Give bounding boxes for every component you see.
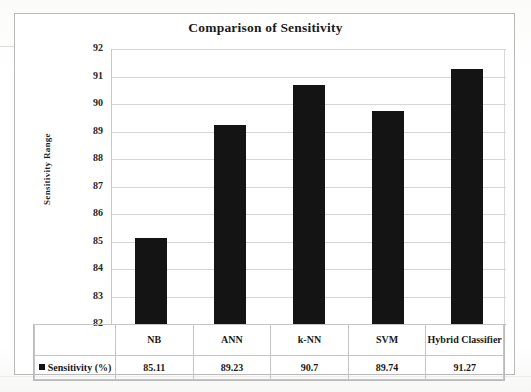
y-axis-title: Sensitivity Range <box>42 109 52 229</box>
bar-k-nn <box>293 85 325 324</box>
chart-title: Comparison of Sensitivity <box>15 20 516 36</box>
y-tick-label-84: 84 <box>69 262 103 273</box>
table-category-cell: NB <box>116 325 194 356</box>
bar-nb <box>135 238 167 324</box>
chart-frame: Comparison of Sensitivity Sensitivity Ra… <box>14 13 515 375</box>
bar-ann <box>214 125 246 324</box>
y-tick-label-87: 87 <box>69 180 103 191</box>
table-value-cell: 85.11 <box>116 356 194 380</box>
table-category-cell: k-NN <box>271 325 349 356</box>
table-category-cell: SVM <box>348 325 426 356</box>
y-tick-label-92: 92 <box>69 42 103 53</box>
legend-marker-icon <box>39 364 45 370</box>
table-corner-cell <box>35 325 116 356</box>
legend-entry: Sensitivity (%) <box>35 356 116 380</box>
chart-screenshot: Comparison of Sensitivity Sensitivity Ra… <box>0 0 531 392</box>
y-tick-label-83: 83 <box>69 290 103 301</box>
table-value-cell: 89.74 <box>348 356 426 380</box>
legend-label: Sensitivity (%) <box>48 362 112 373</box>
y-tick-label-91: 91 <box>69 70 103 81</box>
table-category-cell: ANN <box>193 325 271 356</box>
plot-area <box>111 49 505 324</box>
gridline-91 <box>112 77 506 78</box>
bar-svm <box>372 111 404 324</box>
bar-hybrid-classifier <box>451 69 483 324</box>
y-tick-label-85: 85 <box>69 235 103 246</box>
table-row-categories: NBANNk-NNSVMHybrid Classifier <box>35 325 504 356</box>
y-tick-label-90: 90 <box>69 97 103 108</box>
table-value-cell: 90.7 <box>271 356 349 380</box>
y-tick-label-89: 89 <box>69 125 103 136</box>
table-value-cell: 89.23 <box>193 356 271 380</box>
y-tick-label-88: 88 <box>69 152 103 163</box>
table-row-values: Sensitivity (%) 85.1189.2390.789.7491.27 <box>35 356 504 380</box>
y-tick-label-86: 86 <box>69 207 103 218</box>
table-value-cell: 91.27 <box>426 356 504 380</box>
table-category-cell: Hybrid Classifier <box>426 325 504 356</box>
gridline-92 <box>112 49 506 50</box>
data-table: NBANNk-NNSVMHybrid Classifier Sensitivit… <box>33 324 505 381</box>
